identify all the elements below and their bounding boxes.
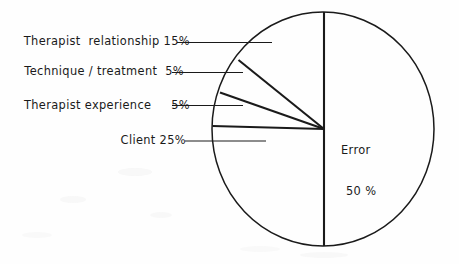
pie-chart-figure: Therapist relationship 15% Technique / t… bbox=[0, 0, 459, 264]
slice-label-client: Client 25% bbox=[0, 133, 186, 147]
slice-label-therapist-relationship: Therapist relationship 15% bbox=[0, 34, 190, 48]
pie-spoke-therapist-relationship bbox=[239, 60, 325, 129]
slice-label-error-name: Error bbox=[341, 144, 376, 158]
slice-label-technique-treatment: Technique / treatment 5% bbox=[0, 64, 184, 78]
slice-label-therapist-experience: Therapist experience 5% bbox=[0, 98, 190, 112]
slice-label-error: Error 50 % bbox=[341, 117, 376, 225]
pie-spoke-therapist-experience bbox=[213, 126, 325, 129]
pie-spoke-technique-treatment bbox=[220, 93, 324, 130]
slice-label-error-value: 50 % bbox=[341, 185, 376, 199]
